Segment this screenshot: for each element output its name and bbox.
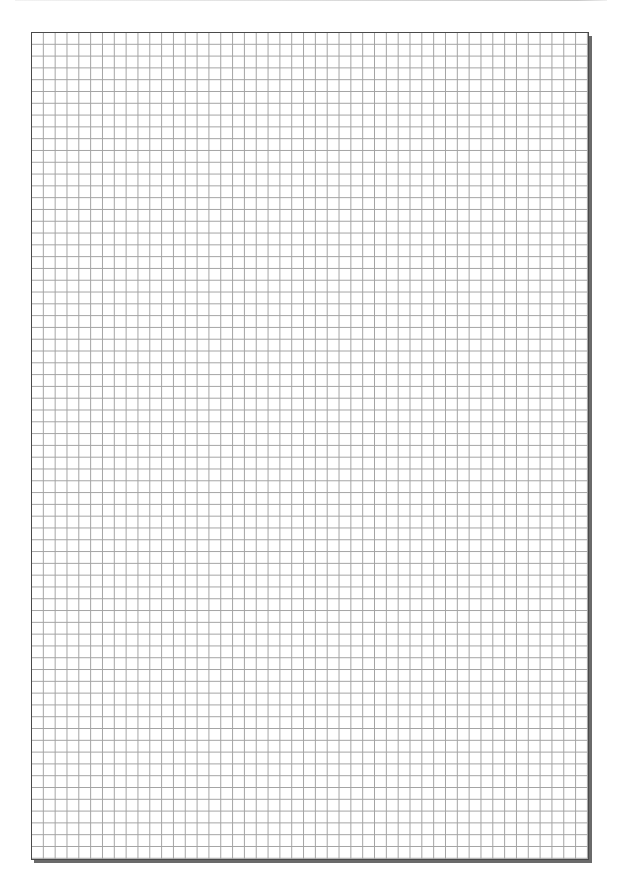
sheet-title bbox=[32, 33, 33, 34]
top-divider bbox=[15, 0, 607, 1]
graph-paper-grid bbox=[31, 32, 589, 860]
